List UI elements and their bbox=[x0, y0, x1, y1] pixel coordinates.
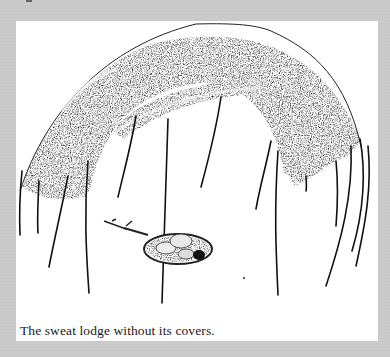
scan-artifact bbox=[26, 0, 32, 2]
figure-caption: The sweat lodge without its covers. bbox=[20, 323, 215, 339]
figure-plate: The sweat lodge without its covers. bbox=[16, 21, 378, 341]
sweat-lodge-illustration bbox=[16, 21, 378, 311]
